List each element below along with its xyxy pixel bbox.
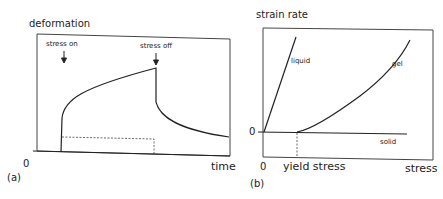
yield-stress-label: yield stress: [283, 161, 345, 172]
panel-b-x-origin-label: 0: [260, 162, 266, 172]
stress-off-arrow-icon: [154, 53, 159, 65]
panel-b-x-label: stress: [405, 163, 438, 174]
deformation-curve: [61, 68, 229, 152]
panel-b-frame: [263, 28, 433, 160]
panel-b-zero-line: [258, 132, 407, 134]
panel-a-x-label: time: [211, 161, 236, 172]
panel-b-y-label: strain rate: [256, 10, 308, 20]
panel-a-frame: [37, 34, 230, 156]
gel-label: gel: [392, 61, 403, 68]
liquid-curve: [264, 37, 296, 132]
solid-label: solid: [380, 139, 396, 146]
gel-curve: [297, 40, 410, 132]
panel-a-baseline: [33, 151, 230, 156]
panel-a-origin-label: 0: [23, 159, 29, 169]
stress-on-arrow-icon: [62, 51, 67, 63]
panel-b-tag: (b): [250, 179, 264, 189]
panel-a-tag: (a): [7, 173, 21, 183]
panel-a-y-label: deformation: [29, 19, 90, 29]
liquid-label: liquid: [291, 58, 310, 65]
stress-off-label: stress off: [140, 43, 172, 50]
stress-on-label: stress on: [46, 41, 78, 48]
panel-b-y-origin-label: 0: [249, 127, 255, 137]
